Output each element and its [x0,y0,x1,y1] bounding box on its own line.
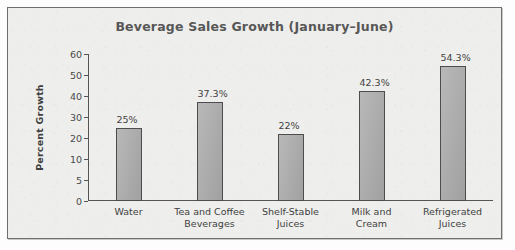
bar-value-label: 25% [117,114,138,125]
y-axis-title-text: Percent Growth [34,84,45,171]
y-tick-mark [84,117,88,118]
bar-group: 42.3%Milk andCream [331,91,412,201]
category-label-line1: Shelf-Stable [262,206,319,217]
bar-value-label: 42.3% [360,77,390,88]
y-axis-title: Percent Growth [32,54,46,201]
bar[interactable]: 42.3% [359,91,385,201]
y-tick-label: 50 [70,70,82,81]
y-tick-label: 5 [76,175,82,186]
plot-area: 60504030201050 25%Water37.3%Tea and Coff… [88,54,493,201]
bar-group: 25%Water [88,128,169,202]
y-tick-mark [84,96,88,97]
y-tick-label: 30 [70,112,82,123]
y-tick-mark [84,201,88,202]
chart-title: Beverage Sales Growth (January–June) [8,19,501,34]
y-tick-label: 0 [76,196,82,207]
category-label-line1: Water [114,206,142,217]
bar-group: 37.3%Tea and CoffeeBeverages [169,102,250,201]
category-label-line2: Juices [405,218,501,230]
bar-value-label: 22% [279,120,300,131]
x-axis-category-label: RefrigeratedJuices [405,206,501,229]
y-tick-label: 10 [70,154,82,165]
bar-group: 22%Shelf-StableJuices [250,134,331,201]
category-label-line1: Milk and [352,206,392,217]
bar[interactable]: 37.3% [197,102,223,201]
bar-group: 54.3%RefrigeratedJuices [412,66,493,201]
category-label-line1: Tea and Coffee [174,206,244,217]
y-tick-label: 20 [70,133,82,144]
bar[interactable]: 22% [278,134,304,201]
bar[interactable]: 54.3% [440,66,466,201]
chart-panel: Beverage Sales Growth (January–June) Per… [7,7,502,239]
bar[interactable]: 25% [116,128,142,202]
y-tick-mark [84,75,88,76]
category-label-line1: Refrigerated [423,206,482,217]
chart-screenshot: Beverage Sales Growth (January–June) Per… [0,0,515,250]
bar-value-label: 54.3% [441,52,471,63]
y-tick-label: 40 [70,91,82,102]
bar-value-label: 37.3% [198,88,228,99]
y-tick-label: 60 [70,49,82,60]
y-tick-mark [84,54,88,55]
